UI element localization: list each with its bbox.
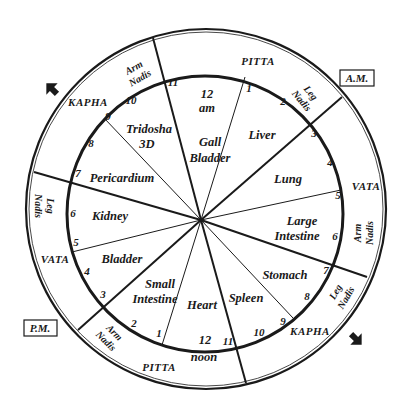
nadis-left: Leg Nadis [33, 193, 56, 218]
organ-spleen: Spleen [229, 291, 264, 305]
organ-large-intestine-1: Large [286, 214, 318, 228]
hour-am-10: 10 [254, 326, 266, 338]
pm-label: P.M. [30, 322, 51, 334]
hour-pm-8: 8 [88, 137, 94, 149]
hour-am-5: 5 [335, 189, 341, 201]
organ-tridosha-1: Tridosha [126, 122, 172, 136]
organ-large-intestine-2: Intestine [273, 229, 320, 243]
hour-pm-2: 2 [130, 317, 137, 329]
label-12am-num: 12 [201, 87, 214, 101]
organ-small-intestine-2: Intestine [131, 292, 178, 306]
organ-pericardium: Pericardium [90, 171, 155, 185]
svg-text:Nadis: Nadis [364, 221, 375, 246]
nadis-top-left: Arm Nadis [120, 57, 153, 89]
hour-am-11: 11 [223, 335, 233, 347]
organ-gall-bladder-1: Gall [199, 135, 222, 149]
hour-am-8: 8 [304, 290, 310, 302]
hour-am-1: 1 [246, 82, 252, 94]
organ-clock-diagram: 12 am Gall Bladder Liver Lung Large Inte… [0, 0, 402, 419]
arrow-bottom-right-icon [345, 328, 367, 350]
organ-stomach: Stomach [262, 268, 307, 282]
arrow-top-left-icon [41, 78, 63, 100]
hour-am-2: 2 [279, 95, 286, 107]
am-label: A.M. [345, 72, 369, 84]
dosha-kapha-top-left: KAPHA [67, 96, 108, 108]
dosha-kapha-bottom-right: KAPHA [289, 325, 330, 337]
organ-liver: Liver [247, 128, 275, 142]
dosha-pitta-top: PITTA [241, 55, 275, 67]
hour-pm-5: 5 [73, 236, 79, 248]
nadis-right: Arm Nadis [352, 221, 375, 246]
hour-am-4: 4 [326, 156, 333, 168]
hour-pm-4: 4 [83, 265, 90, 277]
hour-pm-9: 9 [105, 110, 111, 122]
hour-am-9: 9 [280, 315, 286, 327]
hour-pm-6: 6 [70, 207, 76, 219]
svg-text:Arm: Arm [352, 224, 363, 244]
organ-lung: Lung [273, 172, 302, 186]
hour-pm-7: 7 [75, 167, 81, 179]
hour-am-6: 6 [332, 230, 338, 242]
organ-kidney: Kidney [91, 209, 129, 223]
organ-heart: Heart [186, 298, 217, 312]
svg-text:Leg: Leg [45, 197, 56, 214]
organ-bladder: Bladder [101, 252, 143, 266]
hour-am-3: 3 [310, 127, 317, 139]
organ-small-intestine-1: Small [145, 277, 175, 291]
hour-pm-11: 11 [168, 76, 178, 88]
svg-text:Nadis: Nadis [33, 193, 44, 218]
organ-tridosha-2: 3D [138, 137, 154, 151]
hour-pm-1: 1 [156, 327, 162, 339]
hour-pm-10: 10 [126, 94, 138, 106]
dosha-vata-left: VATA [41, 253, 70, 265]
hour-pm-3: 3 [99, 288, 106, 300]
organ-gall-bladder-2: Bladder [189, 151, 231, 165]
dosha-pitta-bottom: PITTA [142, 361, 176, 373]
hour-am-7: 7 [323, 264, 329, 276]
label-12am-am: am [199, 101, 215, 115]
label-12noon-noon: noon [191, 350, 217, 364]
dosha-vata-right: VATA [352, 180, 381, 192]
label-12noon-num: 12 [199, 333, 212, 347]
nadis-bottom-right: Leg Nadis [324, 279, 356, 312]
